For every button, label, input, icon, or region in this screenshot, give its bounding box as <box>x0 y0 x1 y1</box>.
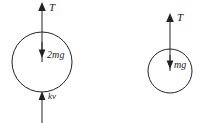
right-tension-label: T <box>177 12 183 23</box>
left-weight-arrow <box>39 42 46 58</box>
left-drag-arrow <box>39 91 46 123</box>
left-weight-label: 2mg <box>47 50 65 60</box>
right-body-group <box>148 13 192 93</box>
left-body-group <box>12 2 72 123</box>
figure-vector-layer <box>0 0 200 123</box>
right-weight-arrow <box>167 55 174 69</box>
right-weight-label: mg <box>174 60 186 70</box>
left-tension-label: T <box>49 2 55 13</box>
left-drag-label: kv <box>48 92 56 101</box>
free-body-diagram-figure: T 2mg kv T mg <box>0 0 200 123</box>
